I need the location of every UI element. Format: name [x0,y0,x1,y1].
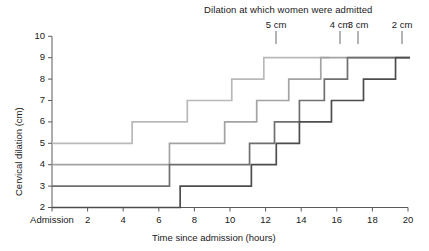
x-tick-label: 12 [260,214,271,225]
series-label-2-cm: 2 cm [392,19,413,30]
x-tick-label: 16 [332,214,343,225]
series-step-line-4-cm [52,58,394,165]
series-label-5-cm: 5 cm [266,19,287,30]
axes-layer [48,36,408,211]
y-tick-label: 4 [40,158,45,169]
y-tick-label: 6 [40,115,45,126]
y-tick-label: 8 [40,73,45,84]
leader-lines-layer [276,31,402,44]
x-tick-label: 20 [403,214,414,225]
x-tick-label: 2 [85,214,90,225]
x-tick-label: 10 [225,214,236,225]
x-tick-label: 8 [192,214,197,225]
x-tick-label: 18 [367,214,378,225]
cervical-dilation-step-chart: Dilation at which women were admitted Ce… [0,0,429,251]
x-tick-label: 14 [296,214,307,225]
x-tick-label: 6 [156,214,161,225]
y-tick-label: 5 [40,137,45,148]
series-layer [52,58,410,208]
y-tick-label: 7 [40,94,45,105]
y-tick-label: 10 [34,30,45,41]
x-tick-label: Admission [30,214,74,225]
x-tick-label: 4 [121,214,126,225]
series-label-3-cm: 3 cm [348,19,369,30]
y-tick-label: 2 [40,201,45,212]
y-tick-label: 3 [40,180,45,191]
y-tick-label: 9 [40,51,45,62]
